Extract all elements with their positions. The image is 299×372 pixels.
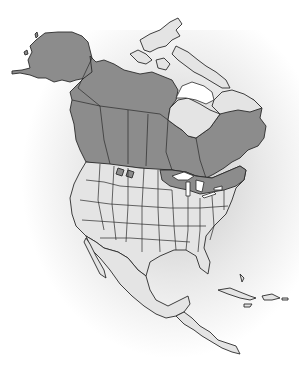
- region-northern-quebec-labrador: [212, 90, 262, 114]
- region-cuba: [218, 288, 256, 300]
- region-jamaica: [244, 304, 252, 307]
- region-central-america: [176, 312, 240, 354]
- alaska-islet: [35, 32, 38, 38]
- region-montana-patch: [126, 170, 134, 178]
- region-bahamas: [240, 274, 244, 282]
- region-montana-patch: [116, 168, 124, 176]
- lake-michigan: [186, 182, 190, 196]
- region-arctic-islands: [156, 58, 170, 70]
- region-hispaniola: [262, 294, 280, 300]
- region-arctic-islands: [130, 50, 152, 64]
- region-baffin-island: [172, 46, 230, 88]
- north-america-range-map: [0, 0, 299, 372]
- region-alaska: [12, 32, 96, 82]
- region-puerto-rico: [282, 298, 288, 300]
- alaska-islet: [24, 50, 28, 55]
- region-canada-west: [70, 56, 266, 178]
- map-svg: [0, 0, 299, 372]
